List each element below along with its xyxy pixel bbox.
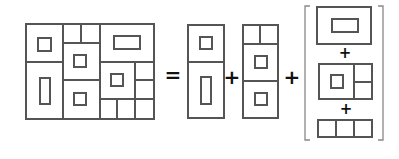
- plus-sign-2: +: [284, 65, 301, 89]
- middle-column-part: [243, 25, 278, 118]
- bracket-group: + +: [305, 6, 383, 140]
- bracket-plus-2: +: [340, 100, 353, 118]
- three-cell-strip: [318, 120, 372, 137]
- equals-sign: =: [165, 63, 182, 87]
- room-with-side-cells: [319, 64, 372, 99]
- plus-sign-1: +: [224, 65, 241, 89]
- bracket-plus-1: +: [339, 44, 352, 62]
- left-column-part: [188, 25, 224, 118]
- composite-layout: [26, 24, 154, 119]
- top-room: [317, 7, 371, 44]
- decomposition-diagram: = + + + +: [0, 0, 399, 159]
